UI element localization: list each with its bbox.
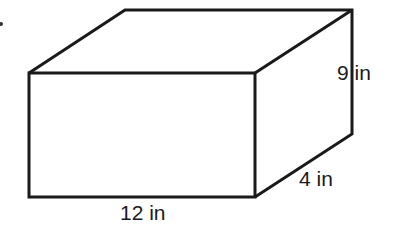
width-label: 4 in [299,167,333,191]
height-label: 9 in [337,61,371,85]
length-label: 12 in [120,201,166,225]
prism-diagram: 9 in 4 in 12 in [0,0,399,227]
front-face [29,73,255,197]
prism-drawing [0,0,399,227]
stray-dot [0,22,3,26]
